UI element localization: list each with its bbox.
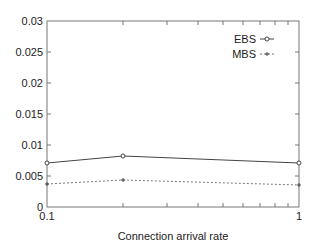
series-mbs-line: [47, 180, 299, 185]
y-ticks: [47, 52, 299, 176]
y-tick-label: 0.025: [15, 46, 43, 58]
x-ticks: [123, 21, 288, 207]
x-tick-label: 0.1: [39, 210, 54, 222]
series-ebs-line: [47, 156, 299, 163]
y-tick-label: 0.03: [22, 15, 43, 27]
y-tick-label: 0.005: [15, 170, 43, 182]
legend-label-mbs: MBS: [232, 48, 256, 60]
x-tick-label: 1: [296, 210, 302, 222]
line-chart: 0.03 0.025 0.02 0.015 0.01 0.005 0 0.1 1…: [0, 0, 314, 250]
plus-marker-icon: [265, 52, 269, 56]
series-mbs-markers: [45, 178, 301, 187]
plot-frame: [47, 21, 299, 207]
x-axis-label: Connection arrival rate: [118, 230, 229, 242]
y-tick-label: 0.02: [22, 77, 43, 89]
y-tick-label: 0.01: [22, 139, 43, 151]
legend-label-ebs: EBS: [234, 33, 256, 45]
y-tick-label: 0.015: [15, 108, 43, 120]
legend: EBS MBS: [232, 33, 274, 60]
diamond-marker-icon: [265, 37, 269, 41]
